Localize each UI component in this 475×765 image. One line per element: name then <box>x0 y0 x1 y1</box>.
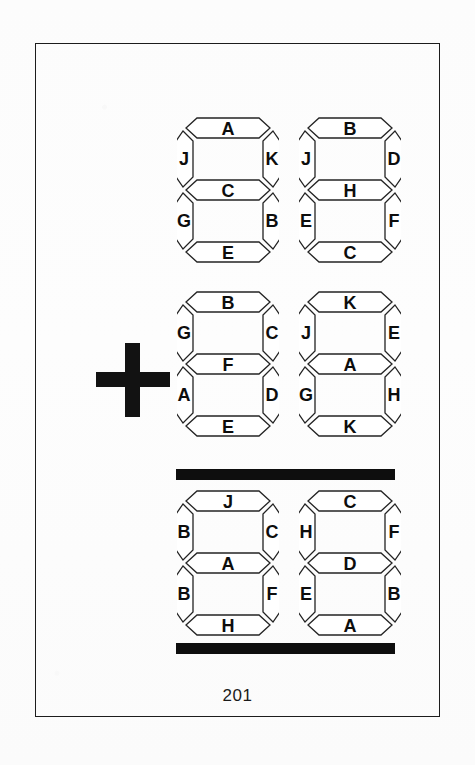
segment-label-bottom-right: F <box>267 584 278 604</box>
segment-label-top-left: B <box>178 522 191 542</box>
addition-bar-top <box>176 469 395 480</box>
segment-label-top-left: J <box>301 323 311 343</box>
segment-label-middle: C <box>222 181 235 201</box>
segment-label-bottom-left: E <box>300 584 312 604</box>
segment-label-top-right: D <box>388 149 401 169</box>
segment-label-top-right: C <box>266 323 279 343</box>
segment-label-middle: H <box>344 181 357 201</box>
segment-label-bottom: K <box>344 417 357 437</box>
segment-label-top: B <box>344 119 357 139</box>
segment-label-bottom: H <box>222 616 235 636</box>
seven-segment-digit-r2c1: C H F D E B A <box>299 487 401 644</box>
addition-bar-bottom <box>176 643 395 654</box>
seven-segment-digit-r2c0: J B C A B F H <box>177 487 279 644</box>
segment-label-bottom-left: E <box>300 211 312 231</box>
segment-label-top-left: G <box>177 323 191 343</box>
segment-label-middle: F <box>223 355 234 375</box>
plus-operator-icon <box>96 343 170 417</box>
seven-segment-digit-r0c0: A J K C G B E <box>177 114 279 271</box>
segment-label-bottom-right: D <box>266 385 279 405</box>
segment-label-bottom: E <box>222 417 234 437</box>
segment-label-top: B <box>222 293 235 313</box>
seven-segment-digit-r1c1: K J E A G H K <box>299 288 401 445</box>
segment-label-bottom-left: G <box>177 211 191 231</box>
seven-segment-digit-r0c1: B J D H E F C <box>299 114 401 271</box>
segment-label-bottom-left: G <box>299 385 313 405</box>
document-page: A J K C G B E B J D H E F C <box>0 0 475 765</box>
plus-vertical-stroke <box>125 343 140 417</box>
segment-label-bottom-right: B <box>266 211 279 231</box>
segment-label-top-right: K <box>266 149 279 169</box>
segment-label-middle: A <box>222 554 235 574</box>
segment-label-bottom: A <box>344 616 357 636</box>
segment-label-bottom-left: B <box>178 584 191 604</box>
segment-label-bottom-right: H <box>388 385 401 405</box>
segment-label-top-right: F <box>389 522 400 542</box>
seven-segment-digit-r1c0: B G C F A D E <box>177 288 279 445</box>
segment-label-bottom-right: B <box>388 584 401 604</box>
page-number: 201 <box>35 686 440 706</box>
segment-label-top: J <box>223 492 233 512</box>
segment-label-top-left: J <box>301 149 311 169</box>
segment-label-bottom-right: F <box>389 211 400 231</box>
segment-label-top-right: C <box>266 522 279 542</box>
segment-label-bottom: E <box>222 243 234 263</box>
segment-label-top-left: J <box>179 149 189 169</box>
segment-label-top: K <box>344 293 357 313</box>
segment-label-middle: A <box>344 355 357 375</box>
segment-label-top-right: E <box>388 323 400 343</box>
segment-label-top: C <box>344 492 357 512</box>
segment-label-middle: D <box>344 554 357 574</box>
segment-label-bottom-left: A <box>178 385 191 405</box>
segment-label-top-left: H <box>300 522 313 542</box>
segment-label-bottom: C <box>344 243 357 263</box>
segment-label-top: A <box>222 119 235 139</box>
